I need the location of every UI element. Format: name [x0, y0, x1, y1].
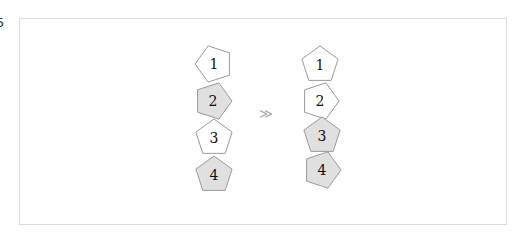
pentagon-2: 2 [198, 83, 232, 119]
pentagon-label: 3 [318, 128, 327, 144]
pentagon-label: 2 [316, 93, 325, 109]
pentagon-label: 4 [318, 162, 327, 178]
pentagon-3: 3 [304, 117, 340, 151]
pentagon-4: 4 [307, 152, 341, 188]
pentagon-label: 2 [209, 93, 218, 109]
left-stack: 1234 [195, 46, 232, 191]
pentagon-diagram: 1234 ≫ 1234 [0, 0, 523, 243]
pentagon-1: 1 [302, 46, 338, 80]
pentagon-label: 1 [316, 57, 325, 73]
pentagon-3: 3 [196, 119, 232, 153]
pentagon-4: 4 [196, 156, 232, 190]
pentagon-label: 3 [210, 130, 219, 146]
pentagon-label: 1 [210, 56, 219, 72]
pentagon-2: 2 [305, 83, 339, 119]
transform-arrow: ≫ [259, 106, 273, 121]
right-stack: 1234 [302, 46, 341, 188]
pentagon-1: 1 [195, 46, 229, 82]
pentagon-label: 4 [210, 167, 219, 183]
